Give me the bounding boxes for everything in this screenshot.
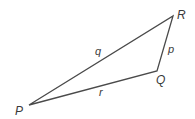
- vertex-label-r: R: [177, 8, 186, 22]
- vertex-label-p: P: [15, 104, 23, 118]
- vertex-label-q: Q: [156, 73, 165, 87]
- triangle-diagram: P Q R q p r: [0, 0, 195, 119]
- side-label-p: p: [167, 43, 174, 55]
- side-label-r: r: [99, 86, 104, 98]
- side-label-q: q: [95, 45, 102, 57]
